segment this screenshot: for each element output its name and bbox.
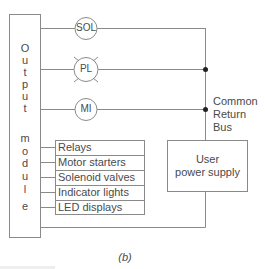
- list-item: Indicator lights: [58, 185, 129, 200]
- bus-label-line-3: Bus: [213, 121, 232, 134]
- module-letter: e: [18, 200, 32, 212]
- module-letter: t: [18, 102, 32, 114]
- bus-label-line-1: Common: [213, 95, 258, 108]
- module-letter: o: [18, 145, 32, 157]
- list-item: Relays: [58, 140, 92, 155]
- module-letter: l: [18, 183, 32, 195]
- figure-caption: (b): [114, 251, 136, 263]
- pilot-light-label: PL: [75, 63, 97, 74]
- power-supply-label-2: power supply: [167, 166, 248, 179]
- circuit-wiring: [0, 0, 265, 269]
- power-supply-label-1: User: [167, 153, 248, 166]
- module-letter: u: [18, 54, 32, 66]
- module-letter: m: [18, 132, 32, 144]
- module-letter: p: [18, 78, 32, 90]
- module-letter: u: [18, 90, 32, 102]
- junction-dot: [203, 67, 208, 72]
- list-item: LED displays: [58, 200, 122, 215]
- module-letter: t: [18, 66, 32, 78]
- list-item: Motor starters: [58, 155, 126, 170]
- junction-dot: [203, 107, 208, 112]
- bus-label-line-2: Return: [213, 108, 246, 121]
- module-letter: d: [18, 157, 32, 169]
- motor-label: MI: [75, 103, 97, 114]
- module-letter: u: [18, 170, 32, 182]
- list-item: Solenoid valves: [58, 170, 135, 185]
- solenoid-label: SOL: [75, 22, 97, 33]
- module-letter: O: [18, 42, 32, 54]
